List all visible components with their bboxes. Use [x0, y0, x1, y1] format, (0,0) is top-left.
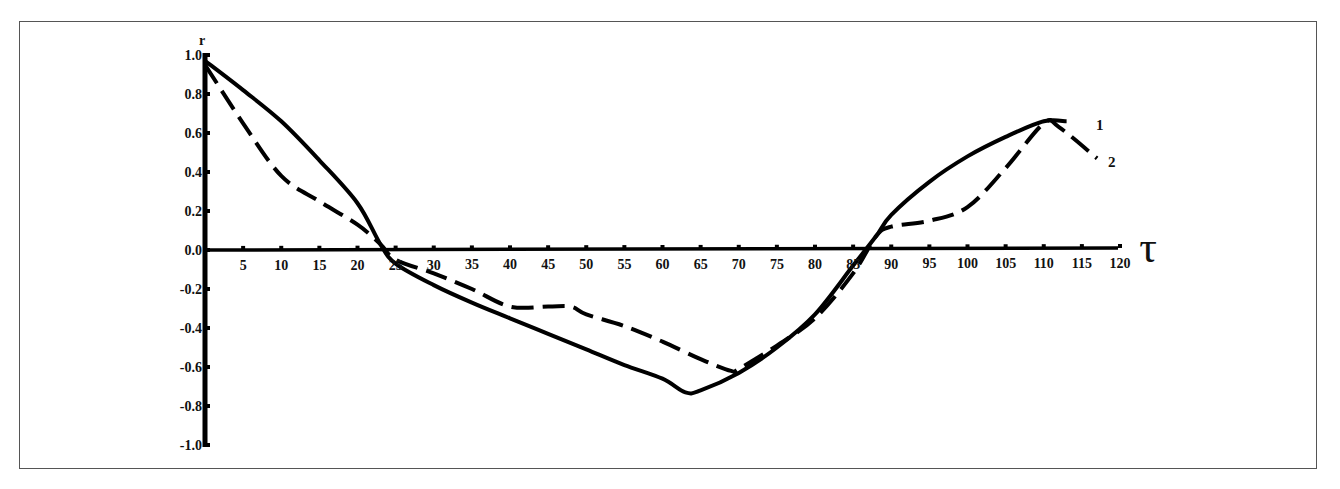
series-2-label: 2 [1108, 154, 1116, 170]
y-tick-label: 0.2 [185, 204, 203, 219]
x-tick-label: 80 [808, 257, 822, 272]
y-tick [205, 53, 210, 57]
axes [205, 53, 1122, 447]
x-tick-label: 70 [732, 257, 746, 272]
y-tick [205, 248, 210, 252]
y-tick-label: 1.0 [185, 48, 203, 63]
x-tick [317, 246, 321, 250]
x-tick [775, 245, 779, 249]
x-tick [1080, 244, 1084, 248]
y-tick-label: 0.4 [185, 165, 203, 180]
x-tick-label: 90 [884, 257, 898, 272]
series-group [205, 61, 1097, 394]
y-tick-label: 0.6 [185, 126, 203, 141]
x-tick [356, 246, 360, 250]
series-2-line [205, 65, 1097, 372]
x-tick [584, 245, 588, 249]
x-tick [699, 245, 703, 249]
x-tick [889, 245, 893, 249]
x-tick [622, 245, 626, 249]
x-tick-label: 45 [541, 257, 555, 272]
x-tick-label: 85 [846, 257, 860, 272]
x-tick-label: 25 [389, 258, 403, 273]
x-tick-label: 110 [1034, 256, 1054, 271]
y-tick [205, 92, 210, 96]
y-tick-label: 0.0 [185, 243, 203, 258]
series-1-line [205, 61, 1067, 394]
x-tick [241, 246, 245, 250]
x-tick-label: 120 [1110, 256, 1131, 271]
y-axis-title: r [199, 33, 205, 48]
x-tick [851, 245, 855, 249]
x-tick-label: 65 [694, 257, 708, 272]
x-tick [1004, 244, 1008, 248]
x-tick-label: 35 [465, 257, 479, 272]
x-tick-label: 115 [1072, 256, 1092, 271]
x-tick [279, 246, 283, 250]
x-tick-label: 10 [274, 258, 288, 273]
y-tick-label: -0.2 [180, 282, 202, 297]
y-tick [205, 170, 210, 174]
x-tick-label: 75 [770, 257, 784, 272]
x-tick [661, 245, 665, 249]
x-tick [1042, 244, 1046, 248]
x-tick-label: 105 [995, 256, 1016, 271]
y-tick [205, 131, 210, 135]
y-tick [205, 287, 210, 291]
y-tick [205, 326, 210, 330]
y-tick-label: -0.4 [180, 321, 202, 336]
y-tick-label: 0.8 [185, 87, 203, 102]
y-tick-label: -1.0 [180, 438, 202, 453]
correlation-chart: 1.00.80.60.40.20.0-0.2-0.4-0.6-0.8-1.051… [0, 0, 1340, 489]
x-tick [1118, 244, 1122, 248]
x-tick [508, 245, 512, 249]
x-tick [813, 245, 817, 249]
x-tick-label: 20 [351, 258, 365, 273]
x-tick-label: 30 [427, 258, 441, 273]
y-tick [205, 443, 210, 447]
x-tick [432, 246, 436, 250]
x-tick-label: 95 [922, 256, 936, 271]
y-tick [205, 209, 210, 213]
y-tick [205, 365, 210, 369]
x-tick-label: 55 [617, 257, 631, 272]
x-tick-label: 50 [579, 257, 593, 272]
x-tick [927, 244, 931, 248]
x-tick-label: 60 [656, 257, 670, 272]
x-tick [737, 245, 741, 249]
y-tick-label: -0.6 [180, 360, 202, 375]
x-tick-label: 100 [957, 256, 978, 271]
x-tick [546, 245, 550, 249]
series-1-label: 1 [1096, 117, 1104, 133]
x-tick-label: 40 [503, 257, 517, 272]
x-tick [394, 246, 398, 250]
x-axis-title: τ [1139, 223, 1157, 272]
y-tick-label: -0.8 [180, 399, 202, 414]
x-tick-label: 5 [240, 258, 247, 273]
x-tick [470, 245, 474, 249]
x-tick-label: 15 [312, 258, 326, 273]
x-tick [966, 244, 970, 248]
labels-group: 1.00.80.60.40.20.0-0.2-0.4-0.6-0.8-1.051… [180, 33, 1157, 453]
y-tick [205, 404, 210, 408]
